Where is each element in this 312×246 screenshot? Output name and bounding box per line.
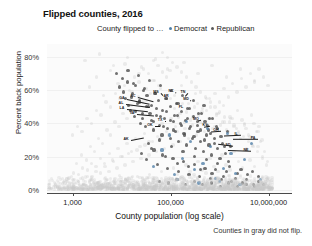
data-point [185,75,188,78]
x-tick [171,193,172,196]
data-point [162,125,165,128]
data-point [227,95,230,98]
data-point [133,75,136,78]
x-axis-line [47,193,292,194]
data-point [85,117,88,120]
data-point [221,120,224,123]
data-point [219,123,222,126]
data-point [80,130,83,133]
data-point [188,175,191,178]
data-point [234,172,237,175]
data-point [196,124,199,127]
data-point [251,170,254,173]
data-point [237,188,240,191]
data-point [194,92,197,95]
data-point [105,128,108,131]
data-point [243,187,246,190]
data-point [113,120,116,123]
data-point [155,107,158,110]
data-point [218,100,221,103]
data-point [185,143,188,146]
data-point [187,102,190,105]
plot-area[interactable]: GASCALLAVAMSNCTNARMDFLTXOKMOKYOHAKILSDNE… [47,44,292,193]
data-point [213,142,216,145]
annotation-label-ok: OK [147,124,152,128]
data-point [200,112,203,115]
data-point [122,90,125,93]
data-point [266,84,269,87]
annotation-leader-line [137,114,154,116]
data-point [229,152,232,155]
annotation-label-oh: OH [213,129,218,133]
data-point [118,85,121,88]
data-point [145,158,148,161]
data-point [260,138,263,141]
data-point [205,109,208,112]
annotation-label-ak: AK [123,138,128,142]
data-point [210,153,213,156]
data-point [208,157,211,160]
data-point [243,158,246,161]
data-point [258,188,261,191]
data-point [185,179,188,182]
data-point [155,186,158,189]
annotation-leader-line [131,137,144,140]
data-point [99,113,102,116]
data-point [196,102,199,105]
data-point [109,133,112,136]
data-point [158,138,161,141]
annotation-leader-line [185,93,188,96]
data-point [123,84,126,87]
data-point [137,80,140,83]
data-point [166,56,169,59]
data-point [189,140,192,143]
data-point [180,84,183,87]
data-point [147,153,150,156]
data-point [219,135,222,138]
data-point [250,113,253,116]
data-point [223,115,226,118]
data-point [196,72,199,75]
data-point [202,104,205,107]
data-point [103,165,106,168]
data-point [72,187,75,190]
data-point [169,97,172,100]
data-point [253,179,256,182]
data-point [189,118,192,121]
data-point [80,153,83,156]
data-point [169,105,172,108]
data-point [222,104,225,107]
annotation-label-tx: TX [158,119,163,123]
data-point [218,157,221,160]
data-point [203,167,206,170]
annotation-label-nc: NC [168,90,173,94]
annotation-leader-line [224,135,241,137]
data-point [143,132,146,135]
data-point [171,61,174,64]
x-tick-label: 10,000,000 [250,198,287,207]
data-point [244,127,247,130]
data-point [228,120,231,123]
data-point [263,150,266,153]
data-point [102,94,105,97]
legend-entry-democrat[interactable]: Democrat [169,24,207,33]
data-point [193,155,196,158]
data-point [161,109,164,112]
annotation-label-sd: SD [226,144,231,148]
data-point [145,176,148,179]
data-point [256,130,259,133]
data-point [235,90,238,93]
data-point [173,173,176,176]
data-point [140,152,143,155]
data-point [112,64,115,67]
data-point [147,142,150,145]
data-point [161,70,164,73]
y-tick-label: 20% [5,152,39,161]
data-point [152,148,155,151]
annotation-leader-line [175,92,176,93]
data-point [83,59,86,62]
data-point [204,171,207,174]
data-point [151,79,154,82]
legend-entry-republican[interactable]: Republican [211,24,254,33]
data-point [113,186,116,189]
